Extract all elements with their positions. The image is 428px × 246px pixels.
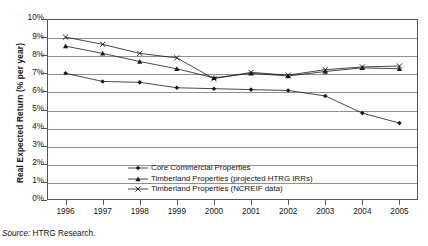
series-1 xyxy=(63,71,402,125)
data-point-marker xyxy=(360,111,365,116)
data-point-marker xyxy=(100,79,105,84)
source-value: HTRG Research. xyxy=(33,229,96,238)
y-axis-tick-label: 10% xyxy=(10,14,44,22)
legend-item-label: Core Commercial Properties xyxy=(151,163,251,174)
x-axis-tick-label: 2005 xyxy=(376,207,422,216)
x-axis-tick-mark xyxy=(140,200,141,205)
x-axis-tick-mark xyxy=(103,200,104,205)
x-axis-tick-mark xyxy=(288,200,289,205)
legend-triangle-icon xyxy=(128,174,148,184)
legend-item[interactable]: Timberland Properties (projected HTRG IR… xyxy=(128,174,313,185)
y-axis-tick-label: 6% xyxy=(10,87,44,95)
x-axis-tick-mark xyxy=(66,200,67,205)
x-axis-tick-mark xyxy=(362,200,363,205)
source-note: Source: HTRG Research. xyxy=(2,229,95,238)
legend-item-label: Timberland Properties (NCREIF data) xyxy=(151,184,283,195)
y-axis-tick-label: 2% xyxy=(10,159,44,167)
series-3 xyxy=(63,35,402,82)
legend-item[interactable]: Timberland Properties (NCREIF data) xyxy=(128,184,313,195)
legend-diamond-icon xyxy=(128,163,148,173)
data-point-marker xyxy=(137,80,142,85)
x-axis-tick-mark xyxy=(399,200,400,205)
x-axis-tick-mark xyxy=(251,200,252,205)
y-axis-tick-label: 1% xyxy=(10,177,44,185)
x-axis-tick-mark xyxy=(325,200,326,205)
source-label: Source: xyxy=(2,229,30,238)
chart-figure: Real Expected Return (% per year) 0%1%2%… xyxy=(0,0,428,246)
data-point-marker xyxy=(397,121,402,126)
legend-cross-icon xyxy=(128,184,148,194)
data-point-marker xyxy=(175,85,180,90)
chart-legend: Core Commercial PropertiesTimberland Pro… xyxy=(128,163,313,195)
data-point-marker xyxy=(212,86,217,91)
x-axis-tick-mark xyxy=(177,200,178,205)
x-axis-tick-mark xyxy=(214,200,215,205)
y-axis-tick-label: 3% xyxy=(10,141,44,149)
y-axis-tick-label: 7% xyxy=(10,69,44,77)
data-point-marker xyxy=(63,44,68,49)
data-point-marker xyxy=(286,88,291,93)
series-line xyxy=(66,37,400,79)
series-2 xyxy=(63,44,402,80)
y-axis-tick-label: 8% xyxy=(10,51,44,59)
y-axis-tick-label: 0% xyxy=(10,195,44,203)
legend-item-label: Timberland Properties (projected HTRG IR… xyxy=(151,174,313,185)
series-line xyxy=(66,46,400,78)
y-axis-tick-label: 9% xyxy=(10,33,44,41)
data-point-marker xyxy=(323,94,328,99)
y-axis-tick-label: 5% xyxy=(10,105,44,113)
y-axis-tick-mark xyxy=(41,200,47,201)
series-line xyxy=(66,73,400,123)
data-point-marker xyxy=(249,87,254,92)
y-axis-tick-label: 4% xyxy=(10,123,44,131)
data-point-marker xyxy=(63,71,68,76)
legend-item[interactable]: Core Commercial Properties xyxy=(128,163,313,174)
